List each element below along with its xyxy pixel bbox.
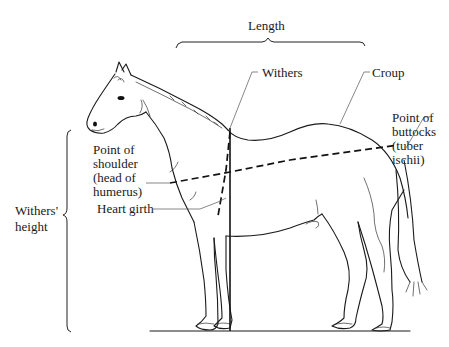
withers-leader <box>230 72 258 128</box>
point-of-buttocks-line1: Point of <box>392 110 434 125</box>
point-of-shoulder-line1: Point of <box>93 142 135 157</box>
heart-girth-leader <box>153 198 226 209</box>
heart-girth-label: Heart girth <box>97 201 154 216</box>
point-of-buttocks-line3: (tuber <box>392 138 424 153</box>
withers-height-label-line2: height <box>15 219 48 234</box>
point-of-shoulder-line4: humerus) <box>93 184 142 199</box>
nostril <box>93 122 97 127</box>
withers-height-brace <box>63 130 71 332</box>
croup-leader <box>340 72 370 124</box>
withers-label: Withers <box>262 65 303 80</box>
length-brace <box>176 38 365 48</box>
withers-height-label-line1: Withers' <box>15 203 58 218</box>
croup-label: Croup <box>372 65 405 80</box>
horse-measurement-diagram: Length Withers' height <box>0 0 449 347</box>
point-of-buttocks-line2: buttocks <box>392 124 436 139</box>
length-label: Length <box>248 18 285 33</box>
body-length-dashed-line <box>170 145 398 183</box>
point-of-shoulder-line2: shoulder <box>93 156 138 171</box>
eye <box>118 96 125 100</box>
point-of-buttocks-line4: ischii) <box>392 152 425 167</box>
point-of-shoulder-line3: (head of <box>93 170 137 185</box>
